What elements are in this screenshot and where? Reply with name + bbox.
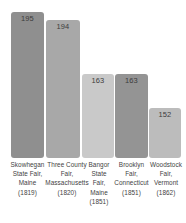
- category-label-line: Vermont: [147, 178, 185, 187]
- bar-value-label-2: 194: [46, 23, 80, 31]
- category-label-woodstock: Woodstock Fair, Vermont (1862): [147, 160, 185, 197]
- bar-value-label-3: 163: [82, 77, 114, 85]
- bar-group-4[interactable]: 163: [115, 74, 148, 158]
- bar-chart: 195 194 163 163 152 Skowhegan State Fair…: [0, 0, 186, 223]
- category-labels: Skowhegan State Fair, Maine (1819) Three…: [0, 160, 186, 223]
- chart-plot-area: 195 194 163 163 152: [0, 0, 186, 158]
- bar-group-1[interactable]: 195: [11, 12, 44, 158]
- category-label-line: Fair,: [147, 169, 185, 178]
- category-label-line: (1862): [147, 188, 185, 197]
- bar-group-5[interactable]: 152: [149, 108, 181, 158]
- bar-value-label-4: 163: [115, 77, 148, 85]
- category-label-line: (1851): [84, 197, 114, 206]
- bar-brooklyn-fair[interactable]: [115, 74, 148, 158]
- bar-three-county-fair[interactable]: [46, 20, 80, 158]
- bar-skowhegan-state-fair[interactable]: [11, 12, 44, 158]
- bar-value-label-1: 195: [11, 15, 44, 23]
- bar-bangor-state-fair[interactable]: [82, 74, 114, 158]
- bar-value-label-5: 152: [149, 111, 181, 119]
- category-label-line: Woodstock: [147, 160, 185, 169]
- bar-group-2[interactable]: 194: [46, 20, 80, 158]
- bar-group-3[interactable]: 163: [82, 74, 114, 158]
